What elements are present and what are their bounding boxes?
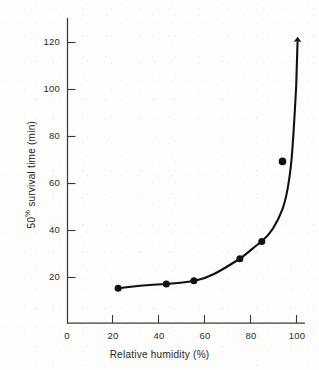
x-tick-label-40: 40 [144,330,174,341]
y-axis-title-suffix: survival time (min) [26,121,37,210]
y-tick-label-120: 120 [14,36,60,47]
data-point [279,158,287,166]
axis-lines [67,18,305,324]
data-point [236,255,243,262]
chart-figure: 120 100 80 60 40 20 0 20 40 60 80 100 Re… [0,0,319,370]
y-tick-label-100: 100 [14,83,60,94]
y-tick-label-20: 20 [14,271,60,282]
y-axis-title-prefix: 50 [26,217,37,229]
x-tick-label-0: 0 [52,330,82,341]
data-point-markers [115,158,287,292]
y-axis-title: 50% survival time (min) [23,85,36,265]
y-tick-label-80: 80 [14,130,60,141]
data-point [163,281,170,288]
data-curve [118,40,298,288]
y-axis-title-percent: % [23,210,32,217]
x-tick-label-80: 80 [236,330,266,341]
data-point [258,238,265,245]
x-axis-ticks [113,315,297,323]
x-tick-label-60: 60 [190,330,220,341]
y-axis-ticks [68,43,76,278]
data-point [190,277,197,284]
data-point [115,285,122,292]
x-tick-label-100: 100 [282,330,312,341]
x-axis-title: Relative humidity (%) [0,349,319,360]
y-tick-label-60: 60 [14,177,60,188]
y-tick-label-40: 40 [14,224,60,235]
x-tick-label-20: 20 [98,330,128,341]
